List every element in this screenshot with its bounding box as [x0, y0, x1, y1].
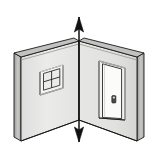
door-knob-icon	[113, 96, 115, 98]
illustration-canvas: Isometric drawing of the inside corner o…	[0, 0, 159, 155]
door	[99, 61, 125, 120]
right-wall-edge-slab	[137, 53, 144, 141]
left-wall-edge-slab	[14, 53, 21, 141]
room-corner-drawing	[0, 0, 159, 155]
door-leaf	[103, 64, 122, 119]
